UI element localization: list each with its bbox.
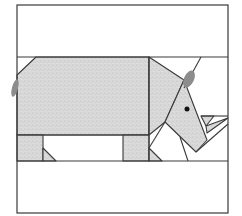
fabric-pieces bbox=[17, 57, 228, 161]
piece-leg-left bbox=[17, 135, 43, 161]
rhino-quilt-diagram: Rhinoceros quilt block pattern bbox=[0, 0, 242, 216]
piece-leg-left-triangle bbox=[43, 148, 56, 161]
piece-body bbox=[17, 57, 149, 135]
piece-leg-right-triangle bbox=[149, 148, 162, 161]
eye-icon bbox=[185, 107, 190, 112]
diagram-canvas bbox=[0, 0, 242, 216]
piece-leg-right bbox=[123, 135, 149, 161]
